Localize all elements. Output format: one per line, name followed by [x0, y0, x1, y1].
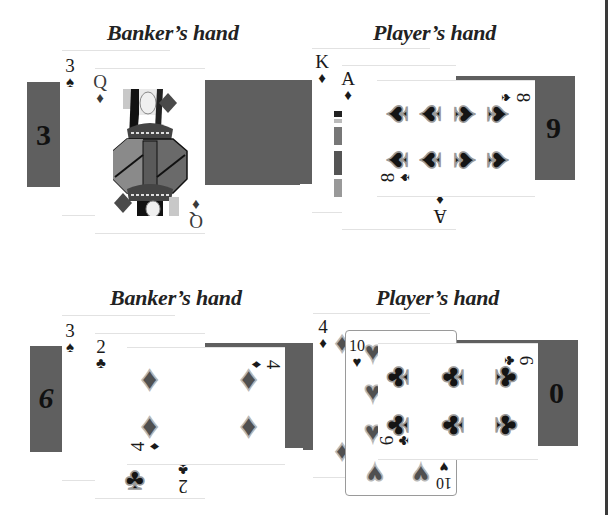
spade-pip: ♠ — [482, 105, 516, 123]
hand-title: Banker’s hand — [107, 20, 239, 46]
card-4-diamonds: 4♦ 4♦ ♦ ♦ ♦ ♦ — [127, 347, 285, 465]
spade-pip: ♠ — [482, 151, 516, 169]
card-index-inverted: 8♠ — [379, 170, 412, 186]
diamond-pip: ♦ — [240, 409, 257, 443]
club-pip: ♣ — [125, 462, 145, 496]
card-index: 8♠ — [499, 90, 532, 106]
club-pip: ♣ — [435, 366, 469, 388]
card-6-clubs: 6♣ 6♣ ♣ ♣ ♣ ♣ ♣ ♣ — [378, 343, 538, 460]
diamond-pip: ♦ — [141, 409, 158, 443]
banker-score-box: 3 — [27, 82, 60, 187]
spade-pip: ♠ — [449, 151, 483, 169]
club-pip: ♣ — [380, 414, 414, 436]
score-backdrop — [298, 80, 312, 184]
card-index: 3♠ — [62, 57, 78, 90]
diamond-icon: ♦ — [340, 87, 356, 103]
card-index: A♦ — [340, 70, 356, 103]
banker-score-box: 9 — [30, 346, 62, 452]
diamond-icon: ♦ — [92, 90, 108, 106]
card-index: 2♣ — [93, 338, 109, 371]
club-pip: ♣ — [490, 366, 524, 388]
spade-icon: ♠ — [62, 74, 78, 90]
spade-pip: ♠ — [379, 151, 413, 169]
card-index-inverted: Q♦ — [188, 197, 204, 230]
spade-pip: ♠ — [412, 105, 446, 123]
card-index-inverted: 2♣ — [175, 462, 191, 495]
hand-title: Player’s hand — [373, 20, 496, 46]
diamond-pip: ♦ — [141, 362, 158, 396]
card-index: 4♦ — [315, 318, 331, 351]
score-backdrop — [205, 80, 300, 185]
hand-title: Banker’s hand — [110, 285, 242, 311]
club-pip: ♣ — [490, 414, 524, 436]
card-queen-diamonds: Q♦ — [95, 68, 205, 234]
diamond-icon: ♦ — [314, 70, 330, 86]
diamond-icon: ♦ — [315, 335, 331, 351]
card-8-spades: 8♠ 8♠ ♠ ♠ ♠ ♠ ♠ ♠ ♠ ♠ — [377, 80, 535, 197]
hand-title: Player’s hand — [376, 285, 499, 311]
club-pip: ♣ — [380, 366, 414, 388]
score-value: 0 — [549, 376, 564, 410]
score-value: 9 — [546, 111, 561, 145]
card-index: K♦ — [314, 53, 330, 86]
score-value: 9 — [39, 382, 54, 416]
club-icon: ♣ — [93, 355, 109, 371]
spade-pip: ♠ — [379, 105, 413, 123]
score-value: 3 — [36, 118, 51, 152]
heart-pip: ♥ — [366, 457, 384, 491]
diamond-pip: ♦ — [240, 362, 257, 396]
heart-pip: ♥ — [412, 457, 430, 491]
card-index: 3♠ — [62, 322, 78, 355]
spade-pip: ♠ — [412, 151, 446, 169]
queen-face-artwork — [113, 89, 188, 216]
spade-pip: ♠ — [449, 105, 483, 123]
card-index: Q♦ — [92, 73, 108, 106]
spade-icon: ♠ — [62, 339, 78, 355]
club-pip: ♣ — [435, 414, 469, 436]
card-index-inverted: 10♥ — [434, 459, 454, 492]
